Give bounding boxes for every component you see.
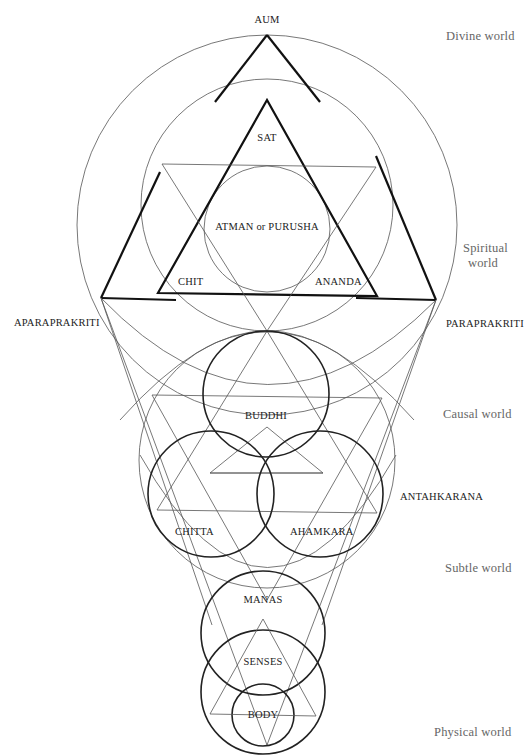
antahkarana-label: ANTAHKARANA: [400, 491, 483, 502]
senses-label: SENSES: [243, 656, 282, 667]
world-label-causal: Causal world: [443, 407, 512, 422]
sat-chit-ananda-triangle: [158, 100, 377, 296]
antahkarana-triangle: [157, 331, 377, 513]
body-label: BODY: [248, 709, 279, 720]
world-label-divine: Divine world: [446, 29, 515, 44]
buddhi-circle: [203, 331, 329, 457]
atman-purusha-label: ATMAN or PURUSHA: [215, 221, 319, 232]
chitta-label: CHITTA: [175, 526, 214, 537]
chit-label: CHIT: [178, 276, 203, 287]
buddhi-label: BUDDHI: [245, 410, 287, 421]
paraprakriti-line: [267, 300, 436, 745]
ananda-label: ANANDA: [315, 276, 362, 287]
aum-label: AUM: [254, 14, 279, 25]
manas-label: MANAS: [244, 594, 283, 605]
senses-circle: [201, 630, 325, 754]
ahamkara-circle: [257, 431, 383, 557]
world-label-physical: Physical world: [434, 725, 511, 740]
aparaprakriti-line: [101, 298, 267, 745]
world-label-spiritual: Spiritualworld: [463, 241, 503, 271]
manas-circle: [201, 571, 325, 695]
hexagram-down-triangle: [162, 164, 376, 331]
sat-label: SAT: [257, 132, 276, 143]
ahamkara-label: AHAMKARA: [290, 526, 353, 537]
paraprakriti-label: PARAPRAKRITI: [446, 318, 524, 329]
causal-arc: [101, 298, 436, 385]
world-label-subtle: Subtle world: [445, 561, 512, 576]
cosmology-diagram: [0, 0, 526, 755]
aparaprakriti-label: APARAPRAKRITI: [14, 317, 100, 328]
